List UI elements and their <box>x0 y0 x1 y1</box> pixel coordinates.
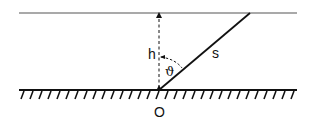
label-theta: ϑ <box>165 64 174 79</box>
angle-arc-arrowhead <box>160 55 165 59</box>
ground-surface <box>19 90 297 99</box>
inclined-line-diagram: h s ϑ O <box>0 0 316 123</box>
label-h: h <box>148 46 156 62</box>
label-origin: O <box>154 104 165 120</box>
label-s: s <box>212 45 219 61</box>
